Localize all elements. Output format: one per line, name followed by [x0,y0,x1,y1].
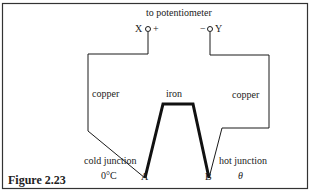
figure-caption: Figure 2.23 [8,174,66,186]
middle-wire-label: iron [166,89,182,99]
cold-junction-label: cold junction [84,156,137,166]
cold-junction-temp: 0°C [101,171,117,181]
junction-a-label: A [141,172,148,182]
hot-junction-temp: θ [238,171,243,181]
terminal-y-icon [208,27,213,32]
terminal-y-polarity: − [200,24,206,34]
terminal-x-polarity: + [153,24,159,34]
left-wire-label: copper [92,89,119,99]
terminal-x-label: X [135,24,142,34]
terminal-x-icon [146,27,151,32]
hot-junction-label: hot junction [219,156,267,166]
potentiometer-label: to potentiometer [146,8,212,18]
right-wire-label: copper [232,90,259,100]
iron-wire [145,104,209,178]
junction-b-label: B [205,172,212,182]
terminal-y-label: Y [215,24,222,34]
